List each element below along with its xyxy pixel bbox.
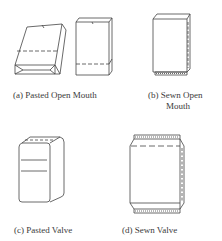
caption-b-line1: (b) Sewn Open xyxy=(148,90,203,101)
pasted-block-bottom-bag xyxy=(15,24,66,74)
pasted-valve-bag xyxy=(19,137,64,202)
sewn-valve-bag xyxy=(130,135,184,213)
open-mouth-flat-bag xyxy=(76,18,112,75)
caption-c: (c) Pasted Valve xyxy=(14,225,72,236)
bag-types-diagram xyxy=(0,0,222,241)
caption-a: (a) Pasted Open Mouth xyxy=(13,90,97,101)
caption-b-line2: Mouth xyxy=(166,101,190,112)
sewn-open-mouth-bag xyxy=(153,14,190,75)
caption-d: (d) Sewn Valve xyxy=(122,225,177,236)
